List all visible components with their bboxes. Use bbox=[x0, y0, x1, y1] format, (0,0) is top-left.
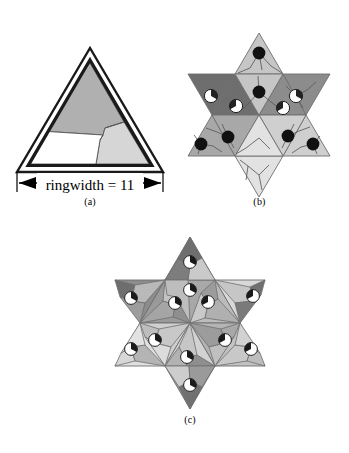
solid-dot-marker bbox=[253, 86, 266, 99]
solid-dot-marker bbox=[222, 131, 235, 144]
pie-marker bbox=[169, 297, 182, 310]
pie-marker bbox=[149, 334, 162, 347]
pie-marker bbox=[125, 292, 138, 305]
pie-marker bbox=[184, 284, 197, 297]
pie-marker bbox=[202, 296, 215, 309]
pie-marker bbox=[229, 99, 242, 112]
caption-c: (c) bbox=[75, 414, 305, 425]
pie-marker bbox=[184, 256, 197, 269]
panel-a-drawing: ringwidth = 11 bbox=[0, 0, 180, 200]
pie-marker bbox=[125, 343, 138, 356]
solid-dot-marker bbox=[282, 130, 295, 143]
pie-marker bbox=[276, 101, 289, 114]
pie-marker bbox=[219, 334, 232, 347]
solid-dot-marker bbox=[195, 138, 208, 151]
pie-marker bbox=[245, 343, 258, 356]
panel-c-drawing bbox=[75, 235, 305, 415]
pie-marker bbox=[204, 89, 217, 102]
panel-b-drawing bbox=[170, 20, 349, 210]
arrow-right-icon bbox=[144, 177, 161, 189]
ringwidth-dimension: ringwidth = 11 bbox=[17, 172, 163, 193]
caption-a: (a) bbox=[0, 196, 180, 207]
caption-b: (b) bbox=[170, 196, 349, 207]
pie-marker bbox=[247, 290, 260, 303]
arrow-left-icon bbox=[19, 177, 36, 189]
ringwidth-label: ringwidth = 11 bbox=[46, 177, 135, 193]
solid-dot-marker bbox=[253, 47, 266, 60]
pie-marker bbox=[289, 89, 302, 102]
pie-marker bbox=[181, 351, 194, 364]
panel-a-regions bbox=[31, 63, 149, 164]
solid-dot-marker bbox=[307, 138, 320, 151]
pie-marker bbox=[184, 379, 197, 392]
